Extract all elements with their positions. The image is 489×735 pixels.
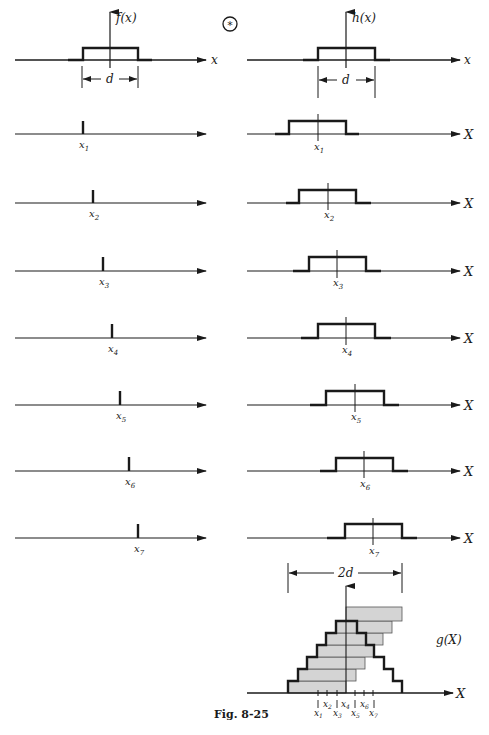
convolution-diagram: f(x) x d * h(x) x d x1 x2 x3 <box>0 0 489 735</box>
h-of-x-plot: h(x) x d <box>247 11 471 98</box>
shifted-pulse-row-2: x2 X <box>247 183 474 223</box>
impulse-row-5: x5 <box>15 391 206 424</box>
axis-label: x <box>464 53 471 67</box>
svg-text:X: X <box>463 264 474 279</box>
svg-text:x4: x4 <box>341 699 350 710</box>
svg-text:x1: x1 <box>314 708 323 719</box>
svg-text:x6: x6 <box>360 699 369 710</box>
shifted-pulse-row-1: x1 X <box>247 114 474 155</box>
convolution-star-icon: * <box>223 17 237 32</box>
svg-text:x5: x5 <box>351 411 362 425</box>
svg-text:x2: x2 <box>324 209 335 223</box>
svg-text:x4: x4 <box>108 343 118 357</box>
impulse-row-7: x7 <box>15 524 206 557</box>
svg-text:X: X <box>463 127 474 142</box>
width-label: d <box>342 73 350 87</box>
svg-text:X: X <box>463 331 474 346</box>
shifted-pulse-row-7: x7 X <box>247 518 474 559</box>
svg-text:x3: x3 <box>333 708 342 719</box>
svg-text:X: X <box>463 398 474 413</box>
svg-text:x1: x1 <box>314 141 324 155</box>
axis-label: X <box>455 686 466 701</box>
svg-text:x5: x5 <box>351 708 360 719</box>
shifted-pulse-row-3: x3 X <box>247 250 474 291</box>
svg-text:x5: x5 <box>116 410 127 424</box>
svg-text:*: * <box>227 19 233 32</box>
svg-text:x3: x3 <box>99 276 110 290</box>
svg-text:x3: x3 <box>333 277 344 291</box>
shifted-pulse-row-6: x6 X <box>247 451 474 492</box>
svg-text:X: X <box>463 196 474 211</box>
impulse-row-4: x4 <box>15 324 206 357</box>
impulse-row-6: x6 <box>15 457 206 490</box>
svg-text:x7: x7 <box>369 545 380 559</box>
impulse-row-3: x3 <box>15 257 206 290</box>
svg-text:x2: x2 <box>323 699 332 710</box>
function-label: f(x) <box>115 11 137 25</box>
svg-text:x7: x7 <box>369 708 378 719</box>
function-label: g(X) <box>436 633 462 647</box>
width-label: 2d <box>337 566 354 580</box>
svg-text:X: X <box>463 531 474 546</box>
svg-text:x7: x7 <box>134 543 145 557</box>
shifted-pulse-row-4: x4 X <box>247 317 474 358</box>
f-of-x-plot: f(x) x d <box>15 11 218 88</box>
svg-text:x4: x4 <box>342 344 352 358</box>
impulse-row-1: x1 <box>15 121 206 153</box>
sum-plot: 2d X g(X) <box>247 563 466 719</box>
svg-text:x1: x1 <box>79 139 89 153</box>
svg-text:x6: x6 <box>125 476 136 490</box>
svg-text:X: X <box>463 464 474 479</box>
figure-caption: Fig. 8-25 <box>214 708 269 721</box>
svg-text:x2: x2 <box>89 208 100 222</box>
function-label: h(x) <box>352 11 376 25</box>
shifted-pulse-row-5: x5 X <box>247 384 474 425</box>
impulse-row-2: x2 <box>15 190 206 222</box>
axis-label: x <box>211 53 218 67</box>
svg-text:x6: x6 <box>360 478 371 492</box>
width-label: d <box>106 72 114 86</box>
